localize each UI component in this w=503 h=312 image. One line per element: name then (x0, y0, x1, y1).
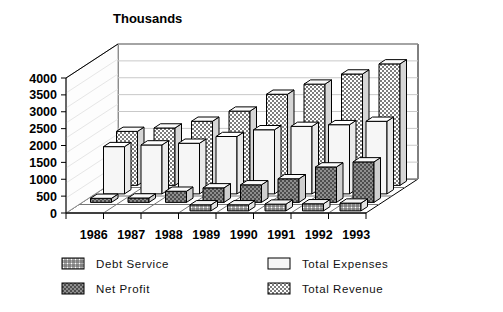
x-tick-label: 1989 (192, 228, 220, 242)
bar-side (125, 142, 132, 194)
legend-swatch (268, 283, 290, 294)
x-tick-label: 1987 (117, 228, 145, 242)
bar-front (265, 204, 286, 211)
bar-net-profit-1986 (91, 194, 119, 202)
bar-chart-3d: 05001000150020002500300035004000 1986198… (0, 0, 503, 312)
legend-label: Net Profit (96, 283, 150, 295)
bar-debt-service-1990 (228, 201, 256, 211)
bar-front (190, 205, 211, 211)
bar-front (353, 162, 374, 203)
bar-net-profit-1990 (241, 181, 269, 203)
x-tick-label: 1986 (80, 228, 108, 242)
x-tick-label: 1992 (305, 228, 333, 242)
bar-net-profit-1987 (128, 194, 156, 203)
bar-front (303, 204, 324, 211)
legend-item-total-expenses[interactable]: Total Expenses (268, 258, 388, 270)
bar-debt-service-1991 (265, 200, 293, 211)
y-tick-label: 3000 (29, 105, 57, 119)
legend-swatch (62, 283, 84, 294)
bar-front (278, 179, 299, 203)
legend-label: Debt Service (96, 258, 169, 270)
chart-title-text: Thousands (113, 11, 182, 26)
bar-debt-service-1992 (303, 200, 331, 211)
bar-front (91, 198, 112, 202)
bar-front (141, 145, 162, 194)
bar-side (374, 158, 381, 203)
chart-title: Thousands (113, 11, 182, 26)
bar-net-profit-1991 (278, 175, 306, 203)
bar-net-profit-1988 (166, 187, 194, 202)
y-tick-label: 3500 (29, 88, 57, 102)
bar-net-profit-1989 (203, 184, 231, 203)
legend-swatch (62, 258, 84, 269)
legend-item-net-profit[interactable]: Net Profit (62, 283, 150, 295)
legend-item-debt-service[interactable]: Debt Service (62, 258, 169, 270)
bar-side (200, 139, 207, 194)
y-tick-label: 500 (36, 190, 57, 204)
legend-swatch (268, 258, 290, 269)
chart-figure: 05001000150020002500300035004000 1986198… (0, 0, 503, 312)
y-tick-label: 2000 (29, 139, 57, 153)
y-tick-label: 2500 (29, 122, 57, 136)
bar-front (316, 167, 337, 202)
bar-front (228, 205, 249, 211)
x-tick-label: 1993 (342, 228, 370, 242)
bar-total-expenses-1987 (141, 141, 169, 194)
x-tick-label: 1991 (267, 228, 295, 242)
bar-front (340, 203, 361, 211)
bar-net-profit-1993 (353, 158, 381, 203)
legend-item-total-revenue[interactable]: Total Revenue (268, 283, 383, 295)
x-tick-label: 1988 (155, 228, 183, 242)
y-tick-label: 1500 (29, 156, 57, 170)
bar-side (387, 117, 394, 194)
chart-legend: Debt ServiceTotal ExpensesNet ProfitTota… (62, 258, 388, 295)
y-axis: 05001000150020002500300035004000 (29, 72, 66, 221)
bar-side (337, 163, 344, 203)
bar-net-profit-1992 (316, 163, 344, 203)
bar-front (104, 147, 125, 194)
x-tick-label: 1990 (230, 228, 258, 242)
bar-total-expenses-1988 (179, 139, 207, 194)
bar-side (162, 141, 169, 194)
x-axis: 19861987198819891990199119921993 (66, 213, 370, 242)
bar-total-expenses-1986 (104, 142, 132, 194)
bar-front (179, 143, 200, 194)
bar-front (166, 191, 187, 202)
y-tick-label: 1000 (29, 173, 57, 187)
y-tick-label: 4000 (29, 72, 57, 86)
y-tick-label: 0 (50, 207, 57, 221)
bar-front (241, 185, 262, 203)
bar-debt-service-1989 (190, 201, 218, 211)
legend-label: Total Expenses (302, 258, 388, 270)
legend-label: Total Revenue (302, 283, 383, 295)
bar-side (400, 60, 407, 186)
bar-front (128, 198, 149, 202)
bar-debt-service-1993 (340, 199, 368, 211)
